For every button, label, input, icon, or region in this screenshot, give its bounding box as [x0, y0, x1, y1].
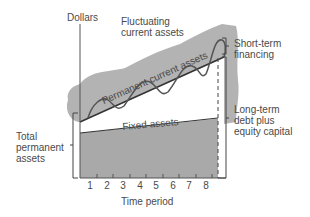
x-tick-3: 3 — [118, 180, 128, 191]
left-bracket-total-permanent — [70, 113, 78, 178]
short-term-financing-label: Short-term financing — [234, 38, 281, 60]
x-tick-2: 2 — [102, 180, 112, 191]
y-axis-label: Dollars — [67, 12, 98, 23]
x-tick-4: 4 — [135, 180, 145, 191]
fluctuating-label: Fluctuating current assets — [121, 16, 184, 38]
x-tick-5: 5 — [151, 180, 161, 191]
long-term-debt-label: Long-term debt plus equity capital — [234, 104, 292, 137]
x-tick-6: 6 — [168, 180, 178, 191]
x-tick-8: 8 — [201, 180, 211, 191]
total-permanent-assets-label: Total permanent assets — [16, 131, 64, 164]
x-axis-label: Time period — [121, 196, 173, 207]
x-tick-7: 7 — [184, 180, 194, 191]
x-tick-1: 1 — [85, 180, 95, 191]
